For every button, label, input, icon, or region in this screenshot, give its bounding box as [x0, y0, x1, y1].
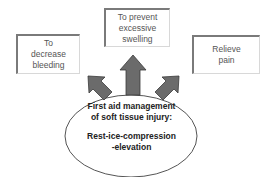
center-method-line: -elevation	[66, 142, 197, 153]
goal-box-prevent-swelling: To prevent excessive swelling	[104, 8, 170, 47]
goal-text-line: To	[31, 38, 66, 49]
goal-box-relieve-pain: Relieve pain	[192, 35, 260, 74]
goal-text-line: decrease	[31, 49, 66, 60]
arrow-up-icon	[120, 55, 146, 95]
arrow-up-left-icon	[88, 76, 112, 100]
center-ellipse-text: First aid management of soft tissue inju…	[66, 101, 197, 153]
goal-text-line: excessive	[118, 23, 158, 34]
goal-text-line: pain	[212, 55, 240, 66]
center-method-line: Rest-ice-compression	[66, 131, 197, 142]
goal-text-line: To prevent	[118, 12, 158, 23]
goal-box-decrease-bleeding: To decrease bleeding	[16, 34, 80, 74]
arrow-up-right-icon	[155, 76, 179, 100]
goal-text-line: bleeding	[31, 60, 66, 71]
center-title-line: First aid management	[66, 101, 197, 112]
center-title-line: of soft tissue injury:	[66, 112, 197, 123]
spacer	[66, 123, 197, 131]
goal-text-line: Relieve	[212, 44, 240, 55]
goal-text-line: swelling	[118, 34, 158, 45]
